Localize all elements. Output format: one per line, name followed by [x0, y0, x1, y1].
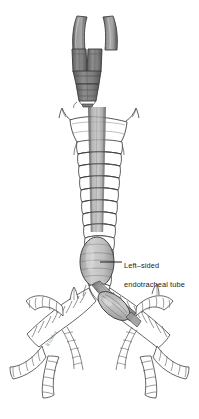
y-connector: [73, 71, 101, 84]
proximal-connector-assembly: [72, 16, 117, 108]
proximal-tube-limb-right: [103, 16, 117, 50]
callout-label-line2: endotracheal tube: [124, 280, 199, 289]
airway-illustration: [0, 0, 199, 419]
endotracheal-tube-shaft: [88, 107, 106, 232]
connector-adapter: [74, 84, 99, 108]
callout-label: Left–sided endotracheal tube: [124, 252, 199, 299]
connector-block-right: [87, 49, 102, 72]
proximal-tube-limb-left: [73, 16, 87, 50]
anatomy-figure: Left–sided endotracheal tube Rhodes: [0, 0, 199, 419]
callout-label-line1: Left–sided: [124, 261, 199, 270]
connector-block-left: [72, 49, 87, 72]
